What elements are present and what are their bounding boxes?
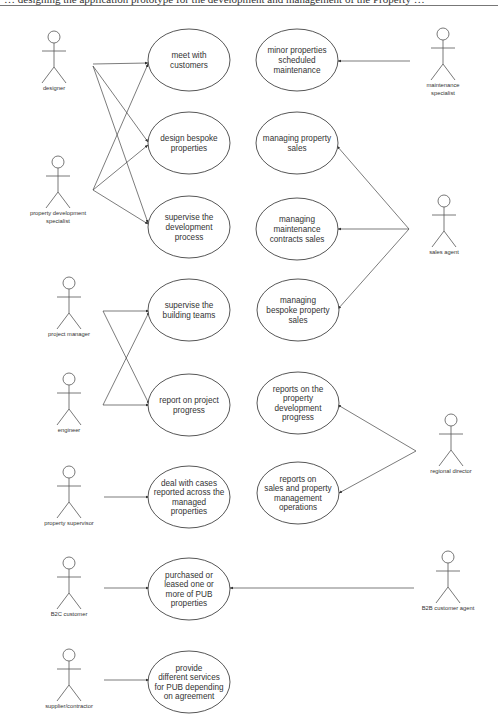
assoc-director-sales <box>339 451 416 493</box>
stick-figure-icon <box>57 277 81 329</box>
stick-figure-icon <box>432 195 456 247</box>
actors-group: designerproperty developmentspecialistma… <box>30 28 475 709</box>
stick-figure-icon <box>439 414 463 466</box>
actor-label: property development <box>30 210 86 216</box>
use-case-label: managed <box>172 498 207 507</box>
use-case-label: sales <box>288 316 307 325</box>
actor-label: sales agent <box>429 249 459 255</box>
use-case-label: properties <box>171 507 207 516</box>
stick-figure-icon <box>46 156 70 208</box>
actor-label: B2C customer <box>51 611 88 617</box>
use-case-label: purchased or <box>165 571 213 580</box>
use-case-provide-services: providedifferent servicesfor PUB dependi… <box>148 651 230 713</box>
use-case-label: managing <box>279 215 315 224</box>
actor-engineer: engineer <box>57 373 81 433</box>
use-case-label: reports on the <box>273 385 324 394</box>
use-case-label: leased one or <box>164 580 214 589</box>
assoc-specialist-meet <box>93 64 148 190</box>
assoc-designer-meet <box>93 63 148 64</box>
use-case-label: sales <box>287 144 306 153</box>
use-case-supervise-building: supervise thebuilding teams <box>148 279 230 341</box>
use-case-label: maintenance <box>274 225 321 234</box>
actor-label: supplier/contractor <box>45 703 93 709</box>
use-case-label: on agreement <box>164 692 215 701</box>
use-case-label: provide <box>176 664 203 673</box>
stick-figure-icon <box>57 649 81 701</box>
use-case-label: building teams <box>163 311 216 320</box>
use-case-label: management <box>274 494 323 503</box>
actor-supplier-contractor: supplier/contractor <box>45 649 93 709</box>
actor-label: designer <box>43 85 65 91</box>
use-case-label: design bespoke <box>160 134 218 143</box>
use-case-minor-maintenance: minor propertiesscheduledmaintenance <box>256 29 338 91</box>
use-case-label: contracts sales <box>270 235 325 244</box>
use-case-bespoke-sales: managingbespoke propertysales <box>257 279 339 341</box>
assoc-engineer-building <box>103 312 149 405</box>
stick-figure-icon <box>57 466 81 518</box>
use-case-label: properties <box>171 599 207 608</box>
use-case-label: supervise the <box>165 213 214 222</box>
use-case-label: for PUB depending <box>154 683 224 692</box>
use-case-maintenance-contracts: managingmaintenancecontracts sales <box>256 198 338 260</box>
use-case-label: minor properties <box>267 46 326 55</box>
actor-label: regional director <box>430 468 472 474</box>
use-case-label: bespoke property <box>266 306 330 315</box>
use-case-property-sales: managing propertysales <box>256 112 338 174</box>
actor-label: property supervisor <box>44 520 94 526</box>
use-case-label: customers <box>170 61 208 70</box>
use-case-label: scheduled <box>278 56 316 65</box>
actor-designer: designer <box>42 31 66 91</box>
stick-figure-icon <box>436 551 460 603</box>
actor-maintenance-specialist: maintenancespecialist <box>426 28 459 96</box>
use-case-label: different services <box>158 673 220 682</box>
use-case-report-progress: report on projectprogress <box>148 374 230 436</box>
association-lines <box>93 61 416 680</box>
use-case-label: managing property <box>263 134 332 143</box>
use-case-reports-sales: reports onsales and propertymanagementop… <box>257 462 339 524</box>
use-case-label: managing <box>280 296 316 305</box>
use-case-label: progress <box>282 413 314 422</box>
actor-label: B2B customer agent <box>422 605 475 611</box>
use-case-label: supervise the <box>165 301 214 310</box>
actor-sales-agent: sales agent <box>429 195 459 255</box>
use-case-label: report on project <box>159 396 219 405</box>
use-case-label: operations <box>279 503 317 512</box>
actor-regional-director: regional director <box>430 414 472 474</box>
stick-figure-icon <box>42 31 66 83</box>
actor-property-development-specialist: property developmentspecialist <box>30 156 86 224</box>
assoc-specialist-supervise <box>93 190 148 224</box>
use-case-diagram: meet withcustomersdesign bespokeproperti… <box>0 0 498 727</box>
use-case-label: reports on <box>280 475 317 484</box>
use-case-label: more of PUB <box>166 590 213 599</box>
actor-label: specialist <box>46 218 70 224</box>
use-case-label: reported across the <box>154 488 225 497</box>
actor-label: maintenance <box>426 82 459 88</box>
use-case-label: sales and property <box>264 484 332 493</box>
use-case-supervise-development: supervise thedevelopmentprocess <box>148 196 230 258</box>
use-case-meet-customers: meet withcustomers <box>148 29 230 91</box>
assoc-sales-property <box>337 146 409 229</box>
use-cases-group: meet withcustomersdesign bespokeproperti… <box>148 29 339 713</box>
actor-label: project manager <box>48 331 90 337</box>
stick-figure-icon <box>431 28 455 80</box>
use-case-deal-cases: deal with casesreported across themanage… <box>148 466 230 528</box>
use-case-label: development <box>275 404 323 413</box>
assoc-specialist-design <box>93 145 148 190</box>
use-case-label: development <box>166 223 214 232</box>
assoc-sales-bespoke <box>338 229 409 309</box>
use-case-label: deal with cases <box>161 479 217 488</box>
stick-figure-icon <box>57 373 81 425</box>
use-case-label: process <box>175 233 204 242</box>
assoc-designer-supervise <box>93 66 148 223</box>
use-case-reports-development: reports on thepropertydevelopmentprogres… <box>257 372 339 434</box>
use-case-label: maintenance <box>274 66 321 75</box>
assoc-pm-report <box>103 311 149 404</box>
use-case-label: meet with <box>171 51 206 60</box>
use-case-purchased-leased: purchased orleased one ormore of PUBprop… <box>148 558 230 620</box>
use-case-design-bespoke: design bespokeproperties <box>148 112 230 174</box>
actor-b2c-customer: B2C customer <box>51 557 88 617</box>
assoc-designer-design <box>93 66 148 142</box>
assoc-director-development <box>338 405 416 451</box>
actor-b2b-customer-agent: B2B customer agent <box>422 551 475 611</box>
actor-label: engineer <box>58 427 81 433</box>
